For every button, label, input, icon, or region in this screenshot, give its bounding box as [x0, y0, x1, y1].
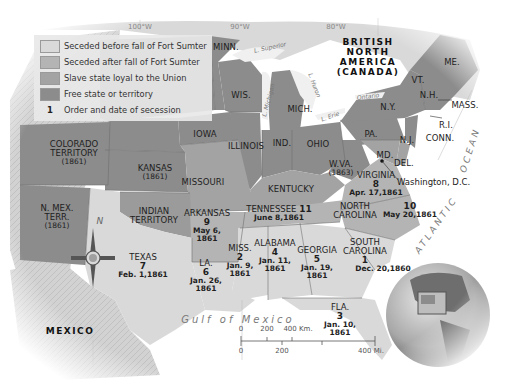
meridian-90w: 90°W	[230, 23, 249, 31]
label-nh: N.H.	[420, 91, 438, 100]
label-ri: R.I.	[439, 121, 453, 130]
label-miss: MISS. 2 Jan. 9, 1861	[227, 244, 254, 278]
label-ohio: OHIO	[307, 140, 330, 149]
label-vt: VT.	[411, 76, 424, 85]
scale-mi-200: 200	[275, 347, 288, 355]
legend-item-order-key: 1 Order and date of secession	[40, 103, 181, 117]
scale-km-0: 0	[239, 325, 243, 333]
label-nj: N.J.	[400, 136, 415, 145]
legend-label: Seceded before fall of Fort Sumter	[64, 41, 207, 51]
label-pa: PA.	[364, 130, 377, 139]
legend-swatch	[40, 56, 60, 69]
legend-swatch	[40, 40, 60, 53]
label-mexico: MEXICO	[46, 327, 95, 337]
label-kentucky: KENTUCKY	[268, 185, 314, 194]
compass-north-label: N	[97, 217, 104, 226]
label-alabama: ALABAMA 4 Jan. 11, 1861	[254, 239, 295, 273]
label-tennessee: TENNESSEE 11 June 8,1861	[246, 205, 311, 222]
label-illinois: ILLINOIS	[228, 142, 264, 151]
legend-item-slave-loyal: Slave state loyal to the Union	[40, 71, 186, 85]
label-north-carolina: NORTH CAROLINA 10 May 20,1861	[333, 202, 437, 220]
label-ind: IND.	[273, 139, 292, 148]
map-legend: Seceded before fall of Fort Sumter Seced…	[34, 35, 212, 121]
legend-item-seceded-after: Seceded after fall of Fort Sumter	[40, 55, 200, 69]
scale-mi-0: 0	[239, 347, 243, 355]
label-kansas: KANSAS (1861)	[138, 164, 172, 181]
label-georgia: GEORGIA 5 Jan. 19, 1861	[297, 246, 336, 280]
label-del: DEL.	[394, 159, 414, 168]
label-virginia: VIRGINIA 8 Apr. 17,1861	[349, 171, 402, 197]
label-missouri: MISSOURI	[182, 178, 225, 187]
legend-label: Order and date of secession	[64, 105, 181, 115]
label-iowa: IOWA	[193, 130, 216, 139]
meridian-80w: 80°W	[326, 23, 345, 31]
meridian-100w: 100°W	[128, 23, 152, 31]
label-british-north-america: BRITISH NORTH AMERICA (CANADA)	[337, 38, 400, 78]
label-mass: MASS.	[451, 101, 478, 110]
legend-label: Seceded after fall of Fort Sumter	[64, 57, 200, 67]
label-arkansas: ARKANSAS 9 May 6, 1861	[184, 209, 230, 243]
scale-km-400: 400 Km.	[283, 325, 312, 333]
label-mich: MICH.	[287, 105, 312, 114]
label-wis: WIS.	[231, 91, 250, 100]
label-minn: MINN.	[213, 43, 239, 52]
label-colorado-territory: COLORADO TERRITORY (1861)	[50, 140, 98, 166]
label-indian-territory: INDIAN TERRITORY	[130, 207, 178, 225]
legend-item-free: Free state or territory	[40, 87, 153, 101]
scale-mi-400: 400 Mi.	[358, 347, 384, 355]
legend-number-symbol: 1	[40, 105, 60, 115]
scale-km-200: 200	[260, 325, 273, 333]
label-conn: CONN.	[426, 134, 455, 143]
legend-item-seceded-before: Seceded before fall of Fort Sumter	[40, 39, 207, 53]
scale-labels: 0 200 400 Km. 0 200 400 Mi.	[238, 325, 378, 361]
legend-label: Slave state loyal to the Union	[64, 73, 186, 83]
legend-swatch	[40, 72, 60, 85]
label-texas: TEXAS 7 Feb. 1,1861	[118, 253, 168, 279]
label-ny: N.Y.	[380, 103, 396, 112]
label-la: LA. 6 Jan. 26, 1861	[190, 259, 222, 293]
label-gulf-of-mexico: Gulf of Mexico	[181, 314, 294, 325]
legend-swatch	[40, 88, 60, 101]
label-nmex-territory: N. MEX. TERR. (1861)	[41, 204, 74, 230]
label-washington-dc: Washington, D.C.	[397, 177, 470, 187]
label-md: MD.	[377, 151, 394, 160]
legend-label: Free state or territory	[64, 89, 153, 99]
label-me: ME.	[444, 58, 460, 67]
